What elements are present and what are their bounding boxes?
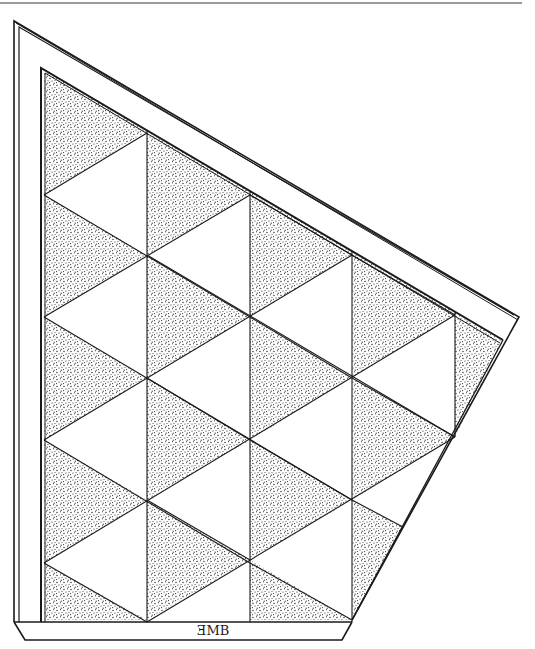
stippled-region (352, 500, 403, 620)
stippled-triangle-panel-drawing: ƎMB (0, 0, 535, 649)
stippled-region (250, 440, 352, 560)
stippled-triangles (44, 70, 503, 620)
stippled-region (44, 440, 147, 563)
stippled-region (352, 378, 455, 500)
stippled-region (44, 195, 147, 317)
stippled-region (147, 378, 250, 500)
stippled-region (44, 317, 147, 440)
stippled-region (44, 70, 147, 195)
base-plinth (14, 622, 352, 640)
stippled-region (147, 500, 250, 620)
stippled-region (250, 317, 352, 440)
artist-signature: ƎMB (197, 623, 229, 638)
stippled-region (147, 255, 250, 378)
